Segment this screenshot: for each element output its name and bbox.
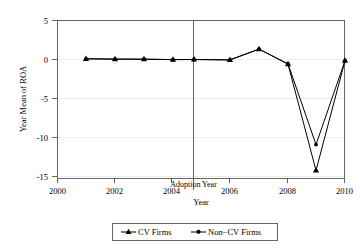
plot-background <box>57 20 345 178</box>
xtick-label-2006: 2006 <box>221 186 238 196</box>
xtick-label-2010: 2010 <box>336 186 353 196</box>
ytick-label-5: 5 <box>44 16 48 26</box>
ytick-label-minus5: -5 <box>41 94 48 104</box>
adoption-year-label: Adoption Year <box>170 180 217 189</box>
y-axis-tick-labels: 5 0 -5 -10 -15 <box>37 16 48 182</box>
legend-label-non-cv-firms: Non−CV Firms <box>208 227 261 237</box>
ytick-label-minus10: -10 <box>37 133 48 143</box>
xtick-label-2008: 2008 <box>279 186 296 196</box>
y-axis-title: Year Mean of ROA <box>18 65 28 132</box>
y-axis-ticks <box>52 21 57 177</box>
xtick-label-2000: 2000 <box>49 186 66 196</box>
ytick-label-minus15: -15 <box>37 172 48 182</box>
circle-marker-icon <box>196 230 200 234</box>
xtick-label-2002: 2002 <box>106 186 123 196</box>
x-axis-title: Year <box>193 197 209 207</box>
legend-label-cv-firms: CV Firms <box>138 227 172 237</box>
roa-line-chart: 5 0 -5 -10 -15 2000 2002 2004 2006 2008 … <box>0 0 360 252</box>
chart-legend: CV Firms Non−CV Firms <box>113 224 278 241</box>
ytick-label-0: 0 <box>44 55 48 65</box>
data-point <box>314 143 318 147</box>
chart-figure: 5 0 -5 -10 -15 2000 2002 2004 2006 2008 … <box>0 0 360 252</box>
